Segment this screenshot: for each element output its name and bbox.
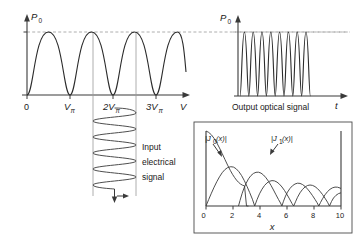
bessel-x-tick-label-2: 2 (230, 211, 234, 220)
output-x-axis-arrow-icon (341, 93, 349, 99)
input-signal-waveform (93, 108, 136, 189)
bessel-x-tick-label-0: 0 (201, 211, 205, 220)
panel-bessel-plot: |J 0 (x)| |J 1 (x)| 0 2 4 6 8 10 x (194, 122, 352, 233)
bessel-j1-label-tail: (x)| (282, 134, 293, 143)
bessel-x-tick-label-6: 6 (284, 211, 288, 220)
transfer-x-tick-label-2vpi: 2V (102, 101, 116, 112)
transfer-x-tick-label-0: 0 (24, 102, 29, 112)
output-caption: Output optical signal (232, 102, 309, 112)
bessel-j0-label-tail: (x)| (216, 134, 227, 143)
bessel-x-tick-label-10: 10 (336, 211, 344, 220)
output-y-axis-label: P (220, 12, 227, 23)
input-bias-arrow-down-icon (112, 197, 117, 204)
input-caption-line-3: signal (142, 172, 164, 182)
transfer-y-axis-arrow-icon (24, 14, 30, 22)
transfer-y-axis-label: P (31, 11, 38, 22)
input-bias-arrow-right-icon (123, 194, 129, 199)
transfer-x-tick-label-3vpi: 3V (146, 101, 159, 112)
input-caption-line-2: electrical (142, 157, 176, 167)
transfer-y-axis-subscript: 0 (39, 17, 43, 24)
panel-transfer-function: P 0 0 V π 2V π 3V π V (22, 11, 350, 114)
output-x-axis-label: t (335, 100, 338, 111)
bessel-j1-label-main: |J (271, 134, 277, 143)
transfer-x-tick-sub-2vpi: π (116, 107, 121, 114)
transfer-x-axis-arrow-icon (183, 92, 191, 98)
bessel-x-tick-label-4: 4 (257, 211, 261, 220)
input-caption-line-1: Input (142, 142, 162, 152)
transfer-x-axis-label: V (180, 101, 188, 112)
bessel-j0-label-main: |J (205, 134, 211, 143)
output-y-axis-subscript: 0 (228, 18, 232, 25)
bessel-j0-annotation: |J 0 (x)| (205, 134, 227, 157)
bessel-x-axis-label: x (269, 221, 276, 232)
bessel-x-tick-label-8: 8 (311, 211, 315, 220)
transfer-curve (27, 32, 186, 95)
transfer-x-tick-sub-vpi: π (71, 107, 76, 114)
bessel-j1-curve (206, 167, 341, 206)
output-signal-curve (240, 32, 310, 96)
figure-root: P 0 0 V π 2V π 3V π V P 0 (0, 0, 356, 236)
composite-figure: P 0 0 V π 2V π 3V π V P 0 (0, 0, 356, 236)
transfer-x-tick-sub-3vpi: π (159, 107, 164, 114)
panel-output-optical-signal: P 0 Output optical signal t (220, 12, 348, 112)
output-y-axis-arrow-icon (235, 15, 241, 23)
bessel-j1-annotation: |J 1 (x)| (270, 134, 293, 155)
